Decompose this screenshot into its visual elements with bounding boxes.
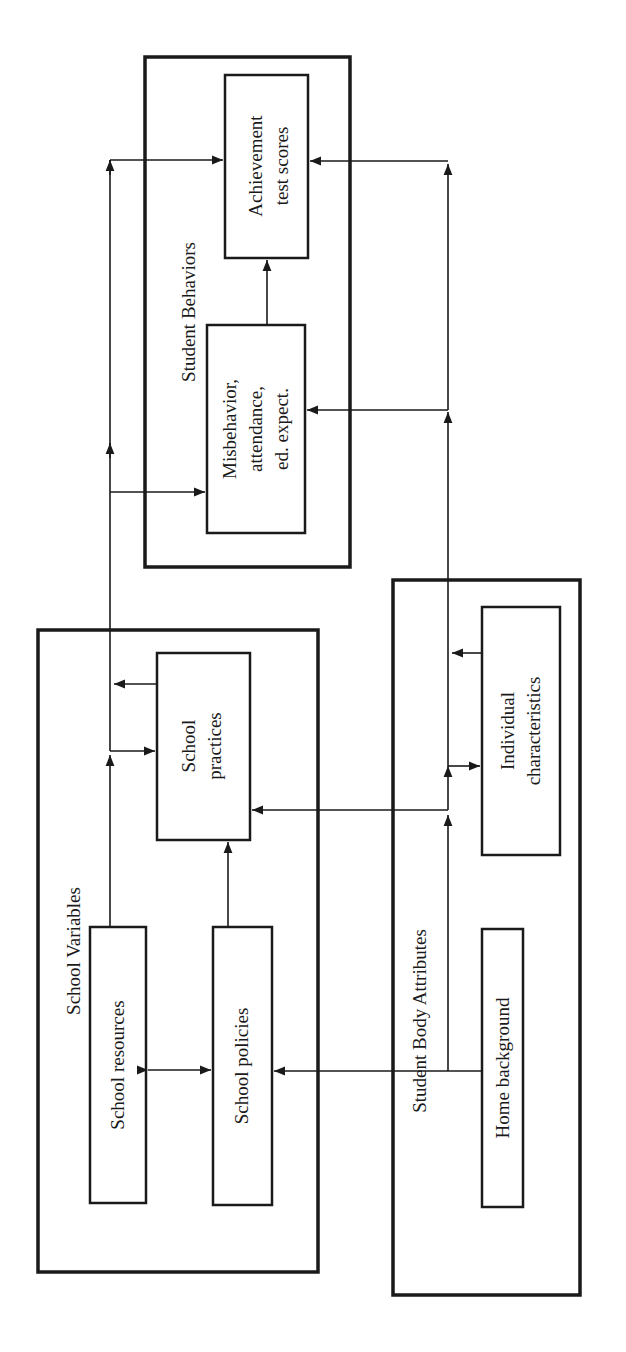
student-body-attributes-title: Student Body Attributes xyxy=(409,929,430,1113)
achievement-line1: Achievement xyxy=(245,115,266,217)
path-diagram: Student Behaviors Achievement test score… xyxy=(0,0,626,1352)
individual-characteristics-line1: Individual xyxy=(497,692,518,770)
achievement-box xyxy=(225,75,308,258)
school-resources-label: School resources xyxy=(107,1000,128,1129)
school-variables-title: School Variables xyxy=(63,887,84,1015)
individual-characteristics-line2: characteristics xyxy=(523,677,544,786)
individual-characteristics-box xyxy=(482,607,560,855)
school-policies-label: School policies xyxy=(231,1008,252,1125)
misbehavior-line1: Misbehavior, xyxy=(219,379,240,479)
school-practices-line1: School xyxy=(178,720,199,773)
misbehavior-line3: ed. expect. xyxy=(271,388,292,470)
misbehavior-line2: attendance, xyxy=(245,386,266,472)
school-practices-line2: practices xyxy=(204,712,225,780)
achievement-line2: test scores xyxy=(271,127,292,206)
student-behaviors-title: Student Behaviors xyxy=(178,242,199,382)
home-background-label: Home background xyxy=(492,997,513,1138)
